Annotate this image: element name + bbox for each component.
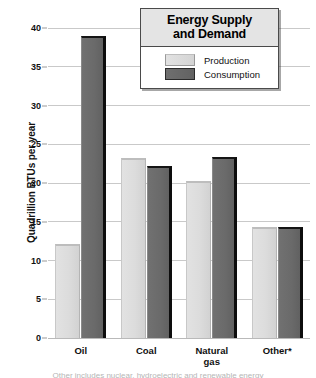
bar-fill	[278, 227, 303, 338]
y-tick-mark-40	[42, 28, 47, 29]
bar-fill	[147, 166, 172, 338]
y-tick-mark-15	[42, 221, 47, 222]
y-tick-label-30: 30	[31, 101, 41, 111]
bar-production-oil	[55, 244, 80, 338]
x-axis-label-coal: Coal	[114, 345, 180, 356]
legend-entries: ProductionConsumption	[141, 47, 278, 88]
x-axis-label-oil: Oil	[48, 345, 114, 356]
y-tick-label-25: 25	[31, 139, 41, 149]
legend-label-consumption: Consumption	[204, 69, 260, 80]
y-tick-mark-25	[42, 144, 47, 145]
legend-item-consumption: Consumption	[141, 67, 278, 81]
x-axis-label-other: Other*	[245, 345, 311, 356]
energy-supply-demand-bar-chart: Quadrillion BTUs per year 05101520253035…	[0, 0, 316, 378]
bar-production-natural-gas	[186, 181, 211, 338]
bar-group-oil	[55, 28, 106, 338]
legend-swatch-production	[165, 54, 195, 66]
y-tick-label-5: 5	[36, 294, 41, 304]
x-axis-label-natural-gas: Naturalgas	[179, 345, 245, 367]
bar-fill	[81, 36, 106, 338]
y-tick-label-40: 40	[31, 23, 41, 33]
y-tick-mark-30	[42, 105, 47, 106]
x-axis-label-line-1: Other*	[245, 345, 311, 356]
y-tick-mark-5	[42, 299, 47, 300]
x-axis-label-line-1: Coal	[114, 345, 180, 356]
bar-consumption-coal	[147, 166, 172, 338]
bar-consumption-natural-gas	[212, 157, 237, 338]
y-tick-label-20: 20	[31, 178, 41, 188]
x-axis-label-line-1: Natural	[179, 345, 245, 356]
legend-label-production: Production	[204, 55, 249, 66]
x-axis-label-line-1: Oil	[48, 345, 114, 356]
y-tick-label-0: 0	[36, 333, 41, 343]
legend-title-line-1: Energy Supply	[143, 13, 276, 27]
bar-fill	[212, 157, 237, 338]
y-tick-mark-20	[42, 183, 47, 184]
bar-fill	[121, 158, 146, 338]
bar-fill	[252, 227, 277, 338]
bar-consumption-other	[278, 227, 303, 338]
legend-title-line-2: and Demand	[143, 27, 276, 41]
y-tick-mark-0	[42, 338, 47, 339]
cut-off-footnote: Other includes nuclear, hydroelectric an…	[0, 371, 316, 378]
bar-fill	[186, 181, 211, 338]
y-tick-label-15: 15	[31, 217, 41, 227]
legend-item-production: Production	[141, 53, 278, 67]
y-tick-mark-35	[42, 66, 47, 67]
bar-consumption-oil	[81, 36, 106, 338]
chart-legend: Energy Supply and Demand ProductionConsu…	[140, 8, 279, 89]
bar-fill	[55, 244, 80, 338]
legend-title: Energy Supply and Demand	[141, 9, 278, 47]
bar-production-other	[252, 227, 277, 338]
y-tick-mark-10	[42, 260, 47, 261]
y-tick-label-35: 35	[31, 62, 41, 72]
y-tick-label-10: 10	[31, 256, 41, 266]
legend-swatch-consumption	[165, 68, 195, 80]
bar-production-coal	[121, 158, 146, 338]
x-axis-label-line-2: gas	[179, 356, 245, 367]
